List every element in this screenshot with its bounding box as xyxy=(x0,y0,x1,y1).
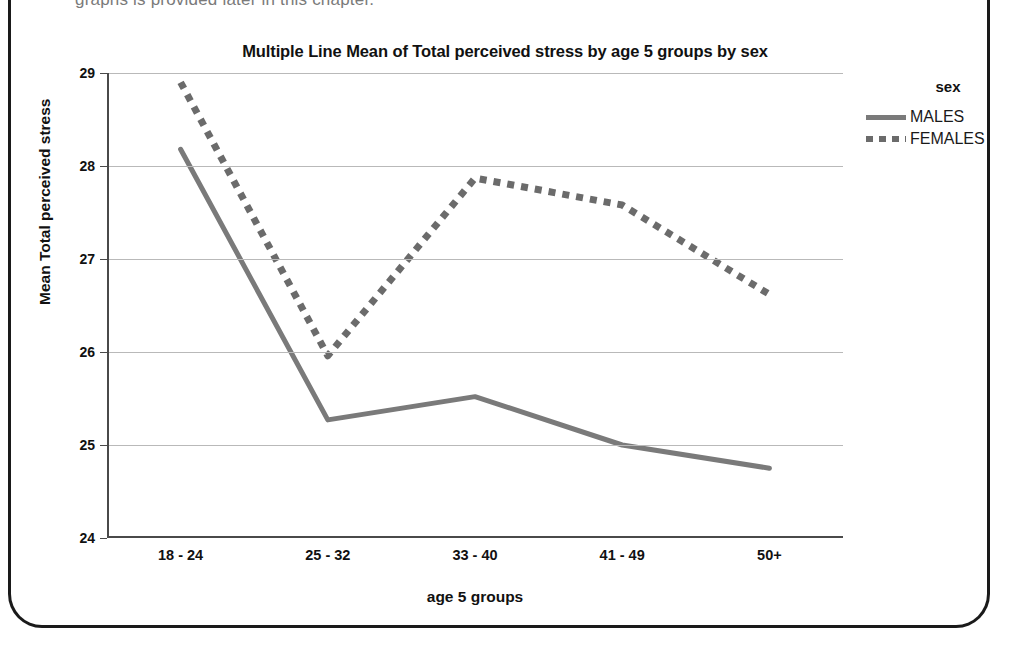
y-axis-tick xyxy=(100,166,107,167)
plot-area: 242526272829 18 - 2425 - 3233 - 4041 - 4… xyxy=(107,73,843,538)
chart-figure: Multiple Line Mean of Total perceived st… xyxy=(0,0,1010,649)
x-axis-title: age 5 groups xyxy=(107,588,843,606)
y-axis-tick xyxy=(100,445,107,446)
legend-label-males: MALES xyxy=(910,108,964,126)
legend-swatch-dotted-line-icon xyxy=(866,136,906,142)
gridline xyxy=(109,352,843,353)
data-series-group xyxy=(107,73,843,538)
series-line-males xyxy=(181,149,770,468)
legend: sex MALES FEMALES xyxy=(866,78,1006,150)
gridline xyxy=(109,73,843,74)
legend-title: sex xyxy=(890,78,1006,95)
legend-swatch-solid-line-icon xyxy=(866,115,906,120)
gridline xyxy=(109,259,843,260)
y-axis-title: Mean Total perceived stress xyxy=(36,99,54,305)
y-axis-tick xyxy=(100,259,107,260)
y-axis-tick-label: 24 xyxy=(79,530,95,546)
x-axis-tick-label: 41 - 49 xyxy=(600,547,645,563)
y-axis-tick xyxy=(100,538,107,539)
y-axis-tick-label: 29 xyxy=(79,65,95,81)
y-axis-tick xyxy=(100,352,107,353)
legend-item-females[interactable]: FEMALES xyxy=(866,128,1006,150)
y-axis-tick xyxy=(100,73,107,74)
legend-item-males[interactable]: MALES xyxy=(866,106,1006,128)
y-axis-line xyxy=(107,73,109,538)
x-axis-line xyxy=(107,536,843,538)
x-axis-tick-label: 33 - 40 xyxy=(452,547,497,563)
gridline xyxy=(109,445,843,446)
x-axis-tick-label: 50+ xyxy=(757,547,782,563)
y-axis-tick-label: 25 xyxy=(79,437,95,453)
legend-label-females: FEMALES xyxy=(910,130,985,148)
gridline xyxy=(109,166,843,167)
y-axis-tick-label: 26 xyxy=(79,344,95,360)
y-axis-tick-label: 27 xyxy=(79,251,95,267)
x-axis-tick-label: 25 - 32 xyxy=(305,547,350,563)
x-axis-tick-label: 18 - 24 xyxy=(158,547,203,563)
y-axis-tick-label: 28 xyxy=(79,158,95,174)
chart-title: Multiple Line Mean of Total perceived st… xyxy=(0,42,1010,61)
